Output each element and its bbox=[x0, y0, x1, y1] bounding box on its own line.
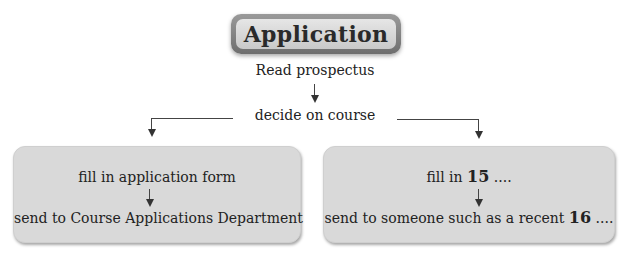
right-step1-suffix: .... bbox=[494, 169, 512, 185]
connector-left-horizontal bbox=[151, 118, 233, 119]
right-step2-suffix: .... bbox=[596, 210, 614, 226]
left-process-box: fill in application form send to Course … bbox=[13, 146, 301, 243]
arrow-down-icon bbox=[475, 131, 483, 139]
right-step-fill-in: fill in 15 .... bbox=[324, 167, 614, 186]
step-decide-course: decide on course bbox=[240, 107, 390, 123]
arrow-down-icon bbox=[146, 199, 154, 207]
arrow-down-icon bbox=[148, 129, 156, 137]
right-process-box: fill in 15 .... send to someone such as … bbox=[323, 146, 615, 243]
right-step-send: send to someone such as a recent 16 .... bbox=[324, 208, 614, 227]
arrow-down-icon bbox=[475, 199, 483, 207]
left-step-fill-form: fill in application form bbox=[14, 169, 300, 185]
blank-15: 15 bbox=[467, 167, 489, 186]
title-banner: Application bbox=[231, 14, 401, 54]
connector-right-horizontal bbox=[397, 119, 478, 120]
blank-16: 16 bbox=[569, 208, 591, 227]
right-step1-prefix: fill in bbox=[426, 169, 462, 185]
step-read-prospectus: Read prospectus bbox=[250, 62, 380, 78]
left-step-send: send to Course Applications Department bbox=[14, 210, 300, 226]
title-text: Application bbox=[236, 19, 396, 49]
right-step2-prefix: send to someone such as a recent bbox=[325, 210, 565, 226]
arrow-down-icon bbox=[311, 95, 319, 103]
